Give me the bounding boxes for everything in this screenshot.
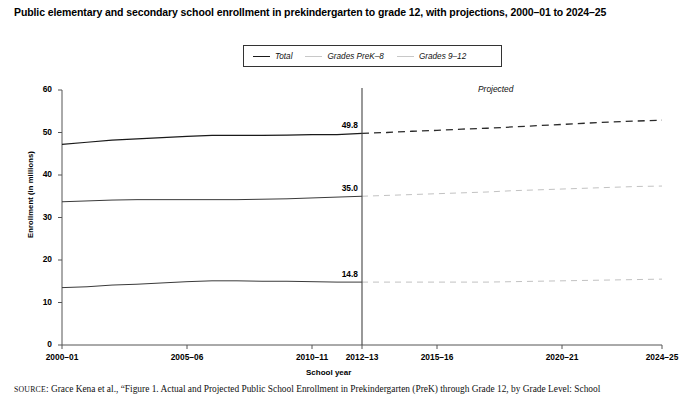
x-tick-label: 2005–06 <box>171 352 204 362</box>
series-line-projected-grades912 <box>362 279 662 282</box>
series-line-actual-total <box>62 133 362 144</box>
chart-figure: Public elementary and secondary school e… <box>0 0 679 400</box>
y-tick-label: 10 <box>26 297 52 307</box>
y-tick-label: 0 <box>26 339 52 349</box>
series-line-projected-total <box>362 120 662 133</box>
source-prefix: SOURCE <box>14 385 46 394</box>
value-label-prek8: 35.0 <box>342 183 358 193</box>
value-label-grades912: 14.8 <box>342 269 358 279</box>
x-axis-title: School year <box>306 368 351 377</box>
y-tick-label: 60 <box>26 84 52 94</box>
axes-layer <box>58 90 662 349</box>
value-label-total: 49.8 <box>342 120 358 130</box>
x-tick-label: 2000–01 <box>46 352 79 362</box>
x-tick-label: 2010–11 <box>296 352 328 362</box>
series-line-projected-prek8 <box>362 186 662 196</box>
x-tick-label: 2020–21 <box>546 352 579 362</box>
y-tick-label: 20 <box>26 254 52 264</box>
series-line-actual-grades912 <box>62 281 362 288</box>
source-body: : Grace Kena et al., “Figure 1. Actual a… <box>46 384 600 394</box>
series-line-actual-prek8 <box>62 196 362 202</box>
projected-annotation: Projected <box>478 84 513 94</box>
x-tick-label: 2012–13 <box>346 352 379 362</box>
plot-area <box>0 0 679 400</box>
x-tick-label: 2024–25 <box>646 352 679 362</box>
y-tick-label: 50 <box>26 127 52 137</box>
x-tick-label: 2015–16 <box>421 352 454 362</box>
y-tick-label: 40 <box>26 169 52 179</box>
source-note: SOURCE: Grace Kena et al., “Figure 1. Ac… <box>14 383 674 396</box>
y-tick-label: 30 <box>26 212 52 222</box>
